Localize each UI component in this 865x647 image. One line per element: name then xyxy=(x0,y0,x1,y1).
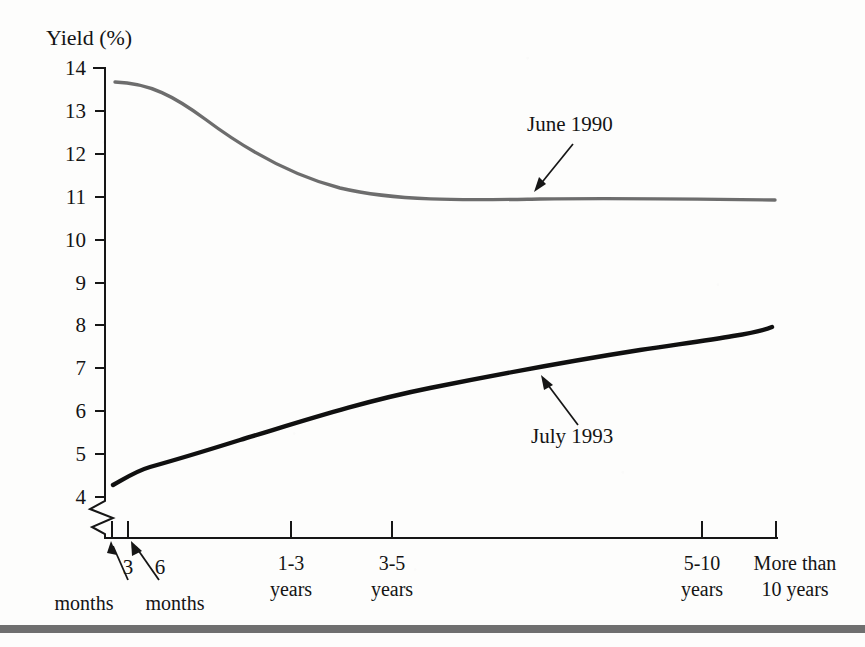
x-tick-label-more-than-10-years-line2: 10 years xyxy=(730,578,860,600)
y-tick-label-11: 11 xyxy=(40,186,86,210)
series-label-june-1990: June 1990 xyxy=(527,113,613,137)
y-tick-label-14: 14 xyxy=(40,57,86,81)
y-tick-label-9: 9 xyxy=(40,272,86,296)
x-callout-unit-3-months: months xyxy=(39,592,129,614)
series-line-july-1993 xyxy=(113,327,772,485)
y-tick-label-6: 6 xyxy=(40,400,86,424)
y-tick-label-13: 13 xyxy=(40,100,86,124)
x-callout-unit-6-months: months xyxy=(130,592,220,614)
x-tick-label-1-3-years-line1: 1-3 xyxy=(241,552,341,574)
x-callout-number-6: 6 xyxy=(140,556,180,580)
y-tick-label-4: 4 xyxy=(40,486,86,510)
x-tick-label-1-3-years-line2: years xyxy=(241,578,341,600)
x-tick-label-more-than-10-years-line1: More than xyxy=(730,552,860,574)
x-tick-label-3-5-years-line2: years xyxy=(342,578,442,600)
y-axis-ticks xyxy=(93,68,105,497)
chart-canvas xyxy=(0,0,865,647)
axis-break-zigzag xyxy=(90,497,113,538)
x-axis-ticks xyxy=(112,521,776,538)
y-tick-label-8: 8 xyxy=(40,314,86,338)
yield-curve-figure: Yield (%) 14 13 12 11 10 9 8 7 6 5 4 Jun… xyxy=(0,0,865,647)
y-tick-label-10: 10 xyxy=(40,229,86,253)
y-tick-label-5: 5 xyxy=(40,443,86,467)
y-tick-label-12: 12 xyxy=(40,143,86,167)
series-line-june-1990 xyxy=(115,82,775,200)
annotation-arrow-june-1990 xyxy=(534,144,573,192)
x-tick-label-3-5-years-line1: 3-5 xyxy=(342,552,442,574)
annotation-arrow-july-1993 xyxy=(541,375,578,425)
y-tick-label-7: 7 xyxy=(40,357,86,381)
y-axis-title: Yield (%) xyxy=(46,26,132,51)
series-label-july-1993: July 1993 xyxy=(531,425,613,449)
